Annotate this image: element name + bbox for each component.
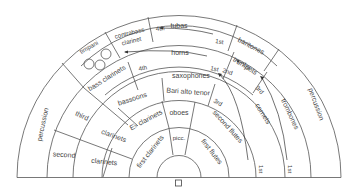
timpani-drum-icon [84, 59, 94, 69]
divider [148, 17, 153, 42]
divider [62, 63, 84, 88]
label-first-clarinets: first clarinets [135, 133, 165, 169]
divider [264, 49, 279, 71]
conductor-podium-arc [157, 156, 201, 178]
divider [169, 128, 173, 155]
label-percussion-right: percussion [306, 87, 325, 122]
label-second: second [53, 150, 76, 159]
label-horns-1st: 1st [215, 37, 224, 45]
label-bassoons: bassoons [117, 91, 148, 107]
sax-order-arrow [125, 51, 207, 56]
divider [185, 128, 190, 155]
label-eb-clarinets: E♭ clarinets [128, 108, 163, 131]
label-third: third [74, 110, 89, 122]
band-seating-diagram: tubas baritones contrabass clarinet timp… [0, 0, 357, 191]
label-clarinets-third: clarinets [100, 128, 127, 144]
label-baritones: baritones [237, 36, 266, 56]
label-picc: picc. [173, 134, 186, 141]
divider [190, 102, 195, 128]
label-flutes-3rd: 3rd [213, 97, 225, 108]
label-tubas: tubas [170, 22, 188, 29]
timpani-drum-icon [101, 49, 111, 59]
conductor-podium-icon [176, 180, 182, 186]
label-trombones: trombones [280, 97, 301, 130]
label-first-flutes: first flutes [200, 138, 224, 166]
divider [84, 88, 103, 104]
timpani-drum-icon [95, 60, 105, 70]
label-flutes-1st: 1st [258, 165, 265, 174]
arrowhead-icon [124, 51, 128, 54]
label-clarinets-second: clarinets [91, 157, 118, 167]
label-percussion-left: percussion [36, 107, 51, 142]
divider [162, 78, 164, 101]
divider [103, 104, 128, 125]
label-timpani: timpani [78, 39, 99, 55]
label-saxophones: saxophones [172, 72, 210, 80]
label-cornets: cornets [254, 102, 272, 126]
label-horns: horns [171, 49, 189, 56]
label-cornets-1st: 1st [287, 165, 294, 174]
label-horns-4th: 4th [155, 24, 165, 32]
label-sax-types: Bari alto tenor [166, 86, 211, 96]
divider [128, 62, 138, 90]
label-sax-4th: 4th [138, 63, 148, 72]
label-trumpets-2nd: 2nd [222, 66, 235, 76]
label-cornets-3rd: 3rd [254, 84, 266, 96]
label-oboes: oboes [169, 109, 189, 116]
